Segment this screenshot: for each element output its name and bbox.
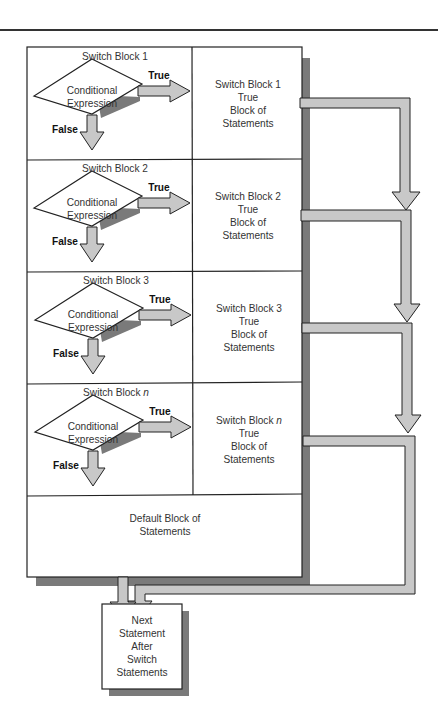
down-arrow-icon — [300, 98, 420, 210]
exit-connector-1 — [300, 98, 420, 210]
block-3-condition: ConditionalExpression — [58, 308, 128, 334]
block-n-body: Switch Block nTrueBlock ofStatements — [203, 414, 295, 466]
block-n-header: Switch Block n — [68, 386, 165, 399]
down-arrow-icon — [302, 323, 421, 433]
exit-connector-3 — [302, 323, 421, 433]
block-2-header: Switch Block 2 — [67, 162, 164, 175]
block-1-false-label: False — [50, 123, 80, 136]
block-1-header: Switch Block 1 — [67, 50, 164, 63]
block-3-true-label: True — [147, 293, 173, 306]
block-2-true-label: True — [146, 181, 172, 194]
exit-connector-2 — [301, 210, 420, 322]
block-n-false-label: False — [51, 459, 81, 472]
block-3-header: Switch Block 3 — [68, 274, 165, 287]
default-block-label: Default Block ofStatements — [108, 512, 222, 538]
next-statement-label: NextStatementAfterSwitchStatements — [107, 614, 177, 679]
block-3-body: Switch Block 3TrueBlock ofStatements — [203, 302, 295, 354]
block-2-condition: ConditionalExpression — [57, 196, 127, 222]
down-arrow-icon — [301, 210, 420, 322]
block-2-body: Switch Block 2TrueBlock ofStatements — [202, 190, 294, 242]
block-n-true-label: True — [147, 405, 173, 418]
block-2-false-label: False — [50, 235, 80, 248]
block-1-body: Switch Block 1TrueBlock ofStatements — [202, 78, 294, 130]
block-1-condition: ConditionalExpression — [57, 84, 127, 110]
block-3-false-label: False — [51, 347, 81, 360]
block-1-true-label: True — [146, 69, 172, 82]
block-n-condition: ConditionalExpression — [58, 420, 128, 446]
main-box-shadow-right — [302, 58, 310, 586]
